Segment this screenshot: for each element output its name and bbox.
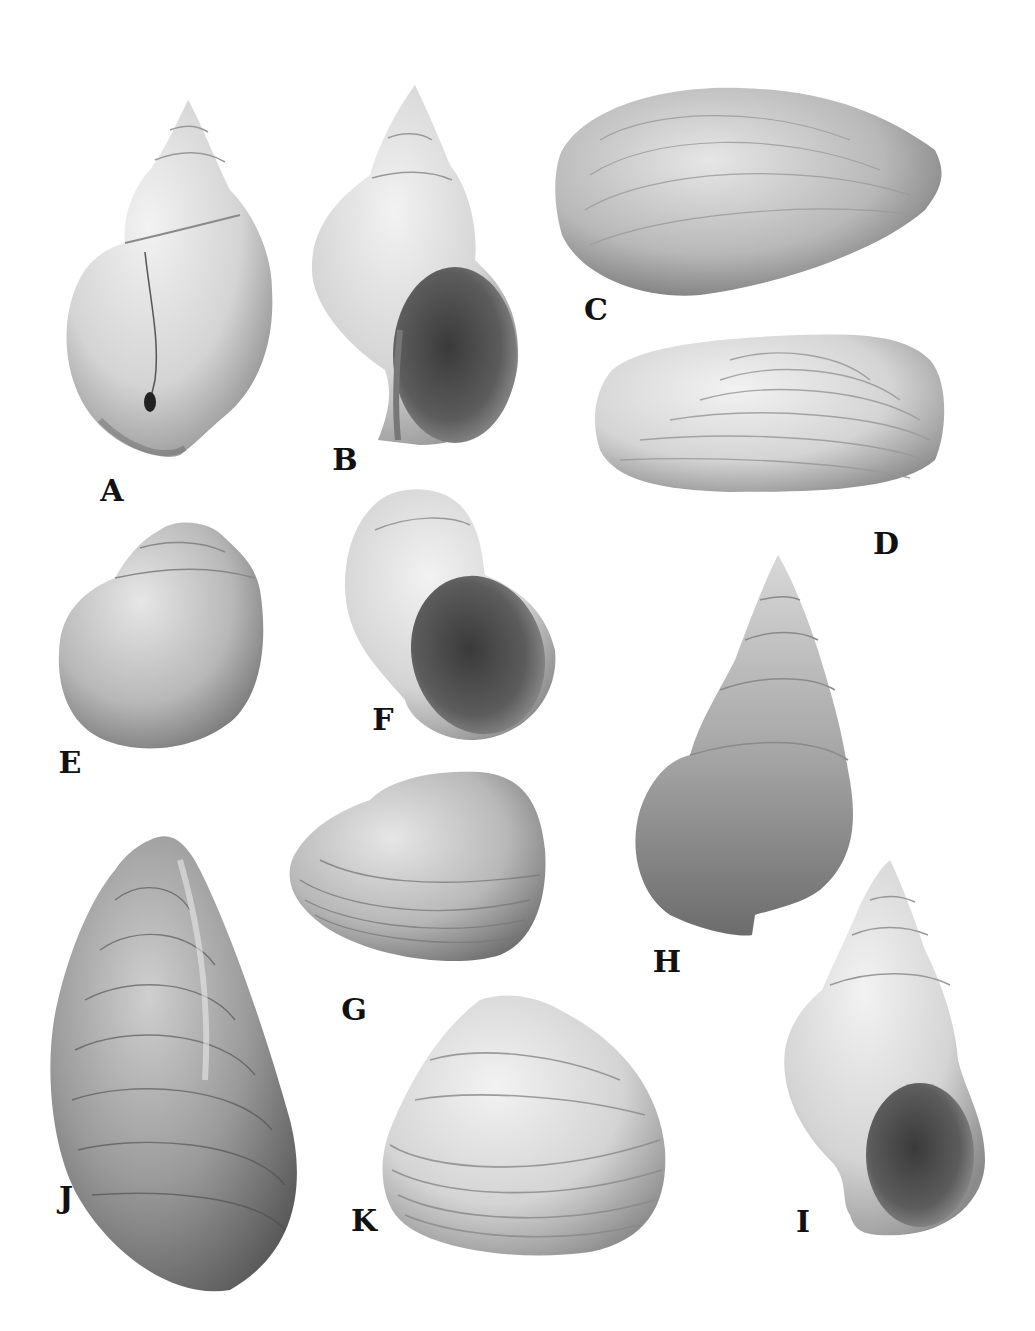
label-k: K [351, 1206, 377, 1236]
specimen-e-shell [59, 522, 263, 748]
label-j: J [59, 1183, 73, 1213]
shell-illustrations [0, 0, 1035, 1331]
specimen-h-shell [635, 555, 853, 936]
specimen-a-shell [67, 100, 273, 457]
specimen-j-shell [50, 836, 297, 1291]
specimen-k-shell [383, 996, 666, 1256]
label-b: B [332, 445, 357, 475]
specimen-b-shell [312, 85, 518, 445]
shell-plate: A B C D E F G H I J K [0, 0, 1035, 1331]
label-d: D [873, 529, 899, 559]
specimen-d-shell [595, 334, 944, 492]
specimen-c-shell [555, 88, 941, 296]
label-g: G [341, 995, 367, 1025]
specimen-g-shell [290, 772, 546, 961]
label-f: F [372, 705, 393, 735]
label-a: A [100, 476, 123, 506]
label-h: H [653, 947, 681, 977]
specimen-i-shell [784, 860, 985, 1235]
label-e: E [59, 748, 82, 778]
label-c: C [584, 295, 608, 325]
label-i: I [796, 1207, 810, 1237]
